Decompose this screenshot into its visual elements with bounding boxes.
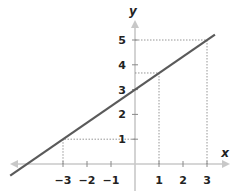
x-tick-label: −3 bbox=[55, 174, 72, 187]
y-tick-label: 3 bbox=[118, 84, 126, 97]
tick-labels: −3−2−112312345xy bbox=[55, 4, 231, 187]
x-tick-label: 1 bbox=[155, 174, 163, 187]
y-axis-arrow-icon bbox=[131, 20, 139, 28]
x-axis-left-arrow-icon bbox=[10, 160, 18, 168]
y-tick-label: 4 bbox=[118, 59, 126, 72]
x-axis-label: x bbox=[220, 146, 230, 160]
y-tick-label: 5 bbox=[118, 34, 126, 47]
y-axis-label: y bbox=[129, 4, 138, 18]
x-axis-right-arrow-icon bbox=[222, 160, 230, 168]
x-tick-label: 2 bbox=[179, 174, 187, 187]
x-tick-label: −1 bbox=[103, 174, 120, 187]
x-tick-label: 3 bbox=[203, 174, 211, 187]
x-tick-label: −2 bbox=[79, 174, 96, 187]
line-chart: −3−2−112312345xy bbox=[0, 0, 233, 196]
y-tick-label: 2 bbox=[118, 108, 126, 121]
data-line bbox=[10, 35, 215, 176]
plot-line bbox=[10, 35, 215, 176]
y-tick-label: 1 bbox=[118, 133, 126, 146]
